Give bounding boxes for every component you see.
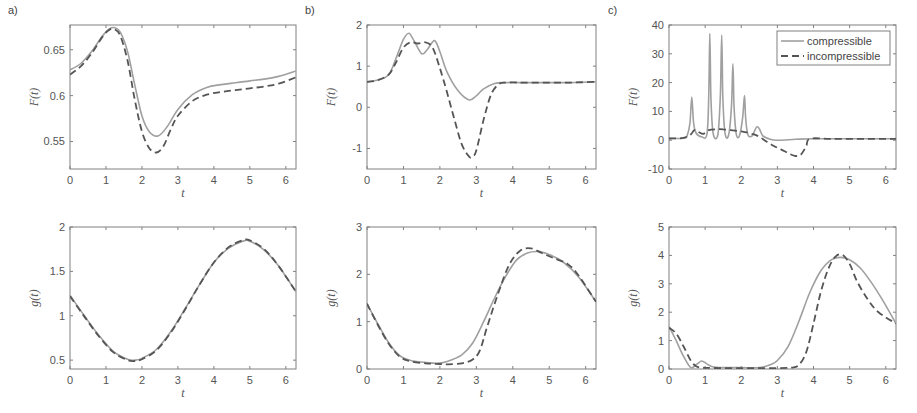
y-tick-label: 0.5 [50, 354, 65, 366]
y-tick-label: 0.65 [44, 44, 65, 56]
series-incompressible [70, 239, 296, 361]
x-tick-label: 3 [175, 174, 181, 186]
y-tick-label: 2 [658, 306, 664, 318]
x-tick-label: 3 [774, 374, 780, 386]
chart-b-top: 0123456-1012tF(t) [324, 19, 596, 200]
y-tick-label: 0 [356, 363, 362, 375]
x-tick-label: 2 [738, 374, 744, 386]
y-axis-label: F(t) [27, 88, 41, 108]
x-tick-label: 1 [702, 174, 708, 186]
axes-frame [367, 227, 596, 369]
series-incompressible [669, 254, 896, 368]
x-tick-label: 2 [437, 374, 443, 386]
x-tick-label: 4 [810, 174, 816, 186]
x-tick-label: 1 [702, 374, 708, 386]
x-tick-label: 0 [666, 174, 672, 186]
y-tick-label: 1 [59, 310, 65, 322]
y-tick-label: 3 [658, 278, 664, 290]
x-axis-label: t [480, 386, 484, 400]
chart-c-bottom: 0123456012345tg(t) [626, 221, 896, 400]
y-tick-label: 0 [658, 363, 664, 375]
y-tick-label: 0.6 [50, 90, 65, 102]
x-tick-label: 2 [738, 174, 744, 186]
y-axis-label: g(t) [324, 289, 338, 306]
x-tick-label: 1 [400, 374, 406, 386]
y-axis-label: F(t) [324, 88, 338, 108]
x-axis-label: t [181, 186, 185, 200]
y-tick-label: 3 [356, 221, 362, 233]
y-tick-label: 1.5 [50, 265, 65, 277]
x-tick-label: 5 [546, 174, 552, 186]
chart-canvas: a)b)c)01234560.550.60.65tF(t)0123456-101… [0, 0, 917, 413]
x-axis-label: t [781, 386, 785, 400]
axes-frame [367, 25, 596, 169]
x-tick-label: 1 [103, 374, 109, 386]
panel-label-b: b) [305, 4, 315, 16]
x-tick-label: 0 [364, 174, 370, 186]
x-tick-label: 4 [810, 374, 816, 386]
x-tick-label: 5 [247, 174, 253, 186]
x-tick-label: 0 [364, 374, 370, 386]
x-tick-label: 4 [510, 374, 516, 386]
y-tick-label: 40 [652, 19, 664, 31]
x-tick-label: 3 [473, 374, 479, 386]
x-tick-label: 6 [283, 174, 289, 186]
y-tick-label: 10 [652, 105, 664, 117]
series-compressible [669, 257, 896, 368]
panel-label-c: c) [608, 4, 617, 16]
axes-frame [70, 25, 296, 169]
chart-c-top: 0123456-10010203040tF(t)compressibleinco… [626, 19, 896, 200]
y-tick-label: 30 [652, 48, 664, 60]
y-tick-label: 1 [356, 60, 362, 72]
chart-a-top: 01234560.550.60.65tF(t) [27, 25, 296, 200]
figure: a)b)c)01234560.550.60.65tF(t)0123456-101… [0, 0, 917, 413]
series-incompressible [669, 129, 896, 156]
x-tick-label: 5 [847, 174, 853, 186]
panel-label-a: a) [8, 4, 18, 16]
x-tick-label: 0 [67, 374, 73, 386]
y-tick-label: 1 [356, 316, 362, 328]
x-tick-label: 1 [400, 174, 406, 186]
x-axis-label: t [781, 186, 785, 200]
y-tick-label: 20 [652, 77, 664, 89]
series-incompressible [367, 42, 596, 158]
x-axis-label: t [181, 386, 185, 400]
y-tick-label: 2 [356, 19, 362, 31]
y-tick-label: -1 [352, 142, 362, 154]
x-tick-label: 2 [437, 174, 443, 186]
x-tick-label: 4 [211, 174, 217, 186]
x-tick-label: 2 [139, 374, 145, 386]
legend-label-compressible: compressible [807, 35, 872, 47]
series-compressible [367, 252, 596, 364]
y-axis-label: g(t) [626, 289, 640, 306]
chart-a-bottom: 01234560.511.52tg(t) [27, 221, 296, 400]
x-tick-label: 6 [283, 374, 289, 386]
x-tick-label: 4 [211, 374, 217, 386]
series-incompressible [70, 29, 296, 153]
y-tick-label: 2 [356, 268, 362, 280]
x-tick-label: 6 [883, 374, 889, 386]
y-tick-label: 0.55 [44, 135, 65, 147]
y-tick-label: 5 [658, 221, 664, 233]
x-tick-label: 1 [103, 174, 109, 186]
y-tick-label: 0 [356, 101, 362, 113]
x-tick-label: 2 [139, 174, 145, 186]
series-compressible [70, 27, 296, 136]
x-axis-label: t [480, 186, 484, 200]
axes-frame [669, 227, 896, 369]
x-tick-label: 5 [546, 374, 552, 386]
x-tick-label: 4 [510, 174, 516, 186]
x-tick-label: 3 [473, 174, 479, 186]
x-tick-label: 5 [247, 374, 253, 386]
series-compressible [367, 33, 596, 100]
y-tick-label: 0 [658, 134, 664, 146]
x-tick-label: 0 [67, 174, 73, 186]
legend-label-incompressible: incompressible [807, 50, 880, 62]
series-incompressible [367, 248, 596, 364]
x-tick-label: 5 [847, 374, 853, 386]
y-axis-label: F(t) [626, 88, 640, 108]
y-tick-label: 1 [658, 335, 664, 347]
y-axis-label: g(t) [27, 289, 41, 306]
legend: compressibleincompressible [777, 31, 890, 65]
x-tick-label: 6 [583, 374, 589, 386]
